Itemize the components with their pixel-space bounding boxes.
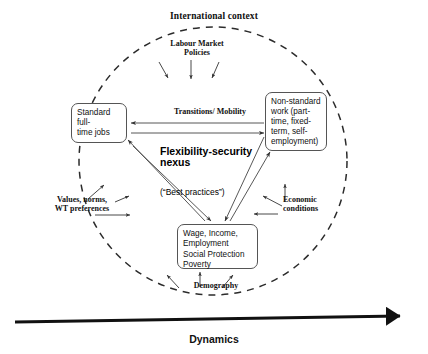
- node-outcomes-wage-income-employment[interactable]: Wage, Income, Employment Social Protecti…: [177, 224, 258, 269]
- label-transitions-mobility: Transitions/ Mobility: [150, 108, 270, 117]
- flexibility-security-nexus-annotation: Flexibility-security nexus (“Best practi…: [160, 128, 280, 215]
- dynamics-arrow: [15, 316, 400, 322]
- arrow-group-labour-market-policies: [159, 60, 219, 79]
- label-values-norms-wt-preferences: Values, norms, WT preferences: [30, 196, 134, 214]
- label-dynamics: Dynamics: [0, 334, 428, 346]
- label-labour-market-policies: Labour Market Policies: [142, 40, 252, 58]
- label-economic-conditions: Economic conditions: [283, 196, 363, 214]
- diagram-title: International context: [0, 11, 428, 22]
- label-demography: Demography: [166, 282, 266, 291]
- node-standard-full-time-jobs[interactable]: Standard full- time jobs: [71, 103, 127, 143]
- nexus-main-text: Flexibility-security nexus: [160, 146, 280, 169]
- node-non-standard-work[interactable]: Non-standard work (part- time, fixed- te…: [265, 92, 327, 151]
- nexus-sub-text: (“Best practices”): [160, 188, 280, 198]
- diagram-canvas: International context Labour Market Poli…: [0, 0, 428, 354]
